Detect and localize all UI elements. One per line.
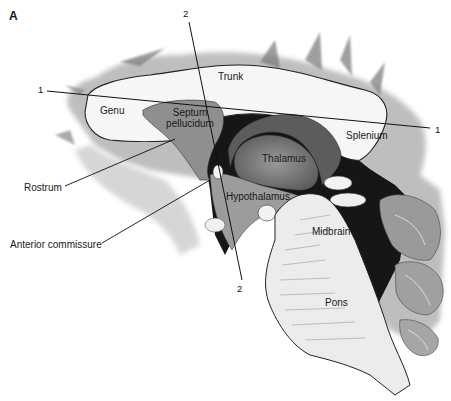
posterior-commissure-body bbox=[324, 176, 352, 190]
optic-chiasm-body bbox=[205, 218, 225, 232]
label-rostrum: Rostrum bbox=[24, 182, 62, 193]
pineal-body bbox=[330, 193, 366, 207]
section-2-bottom-label: 2 bbox=[237, 283, 242, 294]
label-pons: Pons bbox=[325, 297, 348, 308]
section-1-right-label: 1 bbox=[435, 124, 440, 135]
label-hypothalamus: Hypothalamus bbox=[226, 191, 290, 202]
section-2-top-label: 2 bbox=[183, 8, 188, 19]
section-1-left-label: 1 bbox=[38, 84, 43, 95]
mammillary-body bbox=[258, 205, 276, 221]
label-septum-line2: pellucidum bbox=[162, 118, 218, 129]
label-genu: Genu bbox=[100, 105, 124, 116]
label-septum-pellucidum: Septum pellucidum bbox=[162, 107, 218, 129]
anterior-commissure-body bbox=[213, 165, 223, 179]
label-trunk: Trunk bbox=[218, 71, 243, 82]
label-splenium: Splenium bbox=[346, 130, 388, 141]
label-anterior-commissure: Anterior commissure bbox=[10, 239, 102, 250]
label-thalamus: Thalamus bbox=[262, 153, 306, 164]
label-septum-line1: Septum bbox=[162, 107, 218, 118]
panel-label: A bbox=[9, 9, 18, 23]
label-midbrain: Midbrain bbox=[312, 226, 350, 237]
